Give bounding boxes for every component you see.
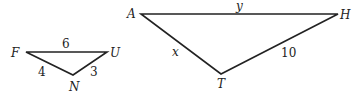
triangle-aht-outline <box>141 14 338 74</box>
vertex-label-f: F <box>10 46 20 60</box>
vertex-label-n: N <box>68 80 80 94</box>
vertex-label-a: A <box>126 7 136 21</box>
vertex-label-t: T <box>217 77 226 91</box>
triangle-aht: A H T y x 10 <box>126 0 351 91</box>
side-label-ah: y <box>235 0 243 13</box>
vertex-label-u: U <box>110 46 121 60</box>
triangle-fun: F U N 6 4 3 <box>10 37 121 94</box>
side-label-fu: 6 <box>62 37 70 51</box>
vertex-label-h: H <box>339 8 351 22</box>
side-label-un: 3 <box>90 65 98 79</box>
similar-triangles-diagram: F U N 6 4 3 A H T y x 10 <box>0 0 363 104</box>
side-label-at: x <box>172 45 179 59</box>
side-label-ht: 10 <box>281 46 296 60</box>
side-label-fn: 4 <box>38 65 46 79</box>
